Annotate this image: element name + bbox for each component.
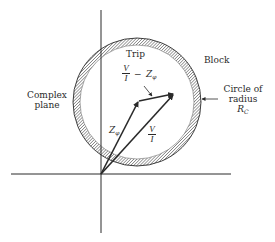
difference-denominator: I xyxy=(122,74,130,83)
circle-label-symbol: RC xyxy=(218,104,268,117)
complex-plane-line1: Complex xyxy=(27,90,67,100)
impedance-relay-diagram xyxy=(0,0,275,242)
difference-z-phi: Zφ xyxy=(146,69,156,82)
complex-plane-line2: plane xyxy=(27,100,67,110)
difference-operator: − xyxy=(134,69,142,79)
block-label: Block xyxy=(204,55,229,65)
v-over-i-label: V I xyxy=(148,125,156,144)
difference-label-fraction: V I xyxy=(122,64,130,83)
z-phi-label: Zφ xyxy=(109,125,119,138)
complex-plane-label: Complex plane xyxy=(27,90,67,110)
circle-label-line1: Circle of xyxy=(218,84,268,94)
circle-radius-label: Circle of radius RC xyxy=(218,84,268,117)
v-over-i-denominator: I xyxy=(148,135,156,144)
rc-subscript: C xyxy=(244,108,249,115)
difference-z-subscript: φ xyxy=(152,73,156,80)
z-phi-subscript: φ xyxy=(115,129,119,136)
circle-label-line2: radius xyxy=(218,94,268,104)
difference-pointer-arrow xyxy=(144,86,152,96)
trip-label: Trip xyxy=(126,49,145,59)
